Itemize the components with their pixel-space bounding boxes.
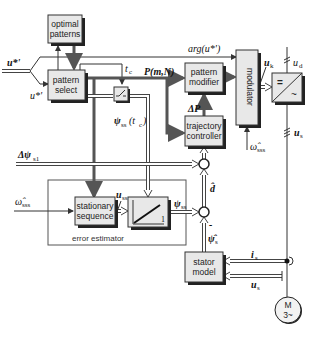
svg-text:ss: ss [122, 194, 128, 202]
svg-text:s: s [215, 238, 218, 246]
svg-text:d: d [299, 62, 303, 70]
p-mn-label: P(m,N) [144, 66, 174, 78]
psi-ss-label: ψ ss [174, 198, 187, 211]
svg-text:modifier: modifier [189, 77, 219, 87]
error-estimator-label: error estimator [72, 234, 124, 243]
current-sensor-node [285, 259, 290, 264]
sampling-switch [114, 87, 130, 103]
psi-s-hat-label: ψ̂ s [208, 233, 218, 246]
optimal-patterns-block: optimal patterns [48, 15, 85, 46]
svg-text:(t: (t [129, 115, 135, 127]
svg-text:t: t [125, 63, 128, 74]
stator-model-block: stator model [185, 252, 226, 285]
svg-text:optimal: optimal [51, 19, 79, 29]
d-hat-wire [200, 169, 208, 208]
svg-text:model: model [192, 267, 215, 277]
svg-text:s: s [300, 132, 303, 140]
svg-text:pattern: pattern [53, 75, 80, 85]
svg-text:s1: s1 [33, 155, 40, 163]
u-d-label: u d [293, 57, 303, 70]
svg-text:c: c [139, 121, 142, 129]
svg-text:sequence: sequence [77, 211, 114, 221]
svg-text:~: ~ [291, 89, 297, 100]
svg-text:stationary: stationary [77, 201, 115, 211]
svg-text:sss: sss [257, 146, 265, 154]
delta-psi-input-wire [16, 160, 199, 168]
svg-text:=: = [277, 77, 283, 88]
stationary-sequence-block: stationary sequence [75, 197, 118, 228]
svg-text:k: k [270, 62, 274, 70]
svg-text:controller: controller [187, 131, 222, 141]
delta-p-label: ΔP [187, 103, 201, 114]
motor-symbol: M 3~ [275, 297, 302, 324]
integrator-block: 1 [128, 197, 171, 230]
svg-text:stator: stator [193, 257, 214, 267]
pattern-select-block: pattern select [48, 70, 88, 103]
delta-psi-s1-label: Δψ s1 [17, 149, 40, 163]
u-ref-bottom-label: u*' [30, 90, 43, 101]
u-s-right-label: u s [294, 127, 303, 140]
arg-u-label: arg(u*') [188, 43, 221, 55]
control-block-diagram: error estimator [0, 0, 317, 340]
svg-text:ψ: ψ [114, 115, 121, 126]
svg-text:pattern: pattern [191, 67, 218, 77]
svg-text:u: u [293, 57, 298, 68]
svg-text:3~: 3~ [283, 310, 293, 320]
switch-to-integrator-wire [130, 96, 152, 197]
psi-ss-tc-label: ψ ss (t c ) [114, 115, 147, 129]
svg-text:ss: ss [121, 121, 127, 129]
u-ref-top-label: u*' [7, 57, 21, 68]
summing-junction-1 [199, 159, 209, 169]
summing-junction-2 [199, 207, 209, 217]
svg-text:1: 1 [161, 215, 165, 224]
svg-text:select: select [55, 85, 78, 95]
pattern-modifier-block: pattern modifier [185, 63, 226, 95]
svg-text:s: s [257, 284, 260, 292]
ac-hash-mark [284, 128, 290, 137]
svg-text:ψ: ψ [174, 198, 181, 209]
svg-text:c: c [129, 68, 132, 76]
psi-s-hat-wire [200, 217, 208, 252]
omega-sss-right-label: ω̂ sss [250, 141, 265, 154]
svg-text:patterns: patterns [50, 29, 81, 39]
minus-sign: - [209, 219, 212, 230]
svg-text:s: s [255, 254, 258, 262]
svg-text:Δψ: Δψ [17, 149, 31, 160]
converter-block: = ~ [272, 73, 305, 105]
svg-text:modulator: modulator [245, 68, 255, 106]
svg-text:ss: ss [181, 203, 187, 211]
svg-text:trajectory: trajectory [187, 121, 223, 131]
tc-label: t c [125, 63, 132, 76]
omega-sss-left-label: ω̂ sss [15, 196, 30, 209]
svg-text:): ) [142, 115, 147, 127]
trajectory-controller-block: trajectory controller [185, 116, 226, 149]
svg-text:i: i [251, 249, 254, 260]
modulator-block: modulator [236, 50, 261, 128]
u-s-bottom-label: u s [251, 279, 260, 292]
svg-text:sss: sss [22, 201, 30, 209]
p-mn-to-trajectory-wire [167, 78, 183, 133]
d-hat-label: d̂ [210, 182, 216, 194]
svg-text:M: M [284, 300, 291, 310]
u-ss-pointer [118, 201, 121, 209]
